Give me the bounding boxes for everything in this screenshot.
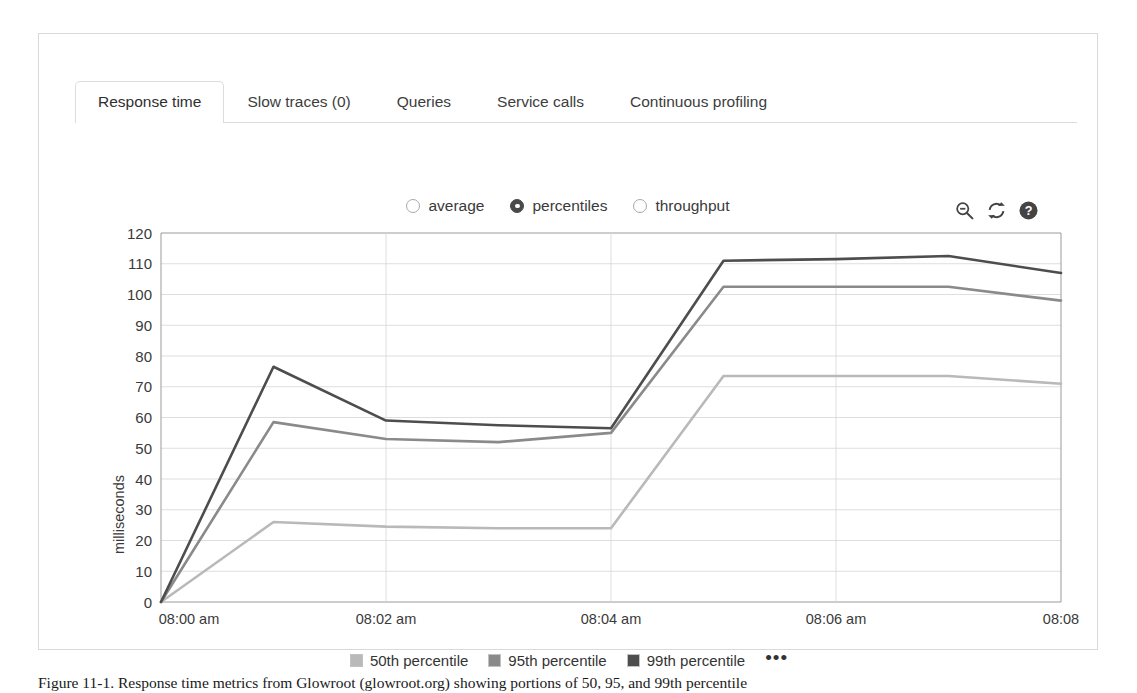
response-time-card: Response time Slow traces (0) Queries Se… [38, 33, 1098, 650]
radio-average-label: average [428, 197, 484, 215]
chart-legend: 50th percentile 95th percentile 99th per… [39, 652, 1099, 669]
legend-item-99th[interactable]: 99th percentile [627, 652, 745, 669]
chart-toolbar: ? [954, 200, 1039, 221]
svg-text:08:00 am: 08:00 am [159, 611, 219, 624]
svg-text:90: 90 [135, 317, 152, 334]
svg-text:100: 100 [127, 286, 152, 303]
tab-queries[interactable]: Queries [374, 81, 474, 122]
radio-circle-icon [633, 199, 647, 213]
tab-service-calls[interactable]: Service calls [474, 81, 607, 122]
radio-circle-selected-icon [510, 199, 524, 213]
radio-circle-icon [406, 199, 420, 213]
svg-text:50: 50 [135, 440, 152, 457]
svg-text:60: 60 [135, 409, 152, 426]
radio-percentiles[interactable]: percentiles [510, 197, 607, 215]
svg-text:08:04 am: 08:04 am [581, 611, 641, 624]
refresh-icon[interactable] [986, 200, 1007, 221]
help-icon[interactable]: ? [1018, 200, 1039, 221]
legend-item-95th[interactable]: 95th percentile [488, 652, 606, 669]
legend-label-99th: 99th percentile [647, 652, 745, 669]
svg-text:20: 20 [135, 532, 152, 549]
legend-item-50th[interactable]: 50th percentile [350, 652, 468, 669]
svg-text:110: 110 [128, 255, 152, 272]
tab-response-time[interactable]: Response time [75, 81, 224, 122]
legend-swatch-icon [350, 654, 363, 667]
screenshot-root: Response time Slow traces (0) Queries Se… [0, 0, 1137, 693]
svg-text:08:06 am: 08:06 am [806, 611, 866, 624]
legend-label-50th: 50th percentile [370, 652, 468, 669]
legend-swatch-icon [488, 654, 501, 667]
tab-bar: Response time Slow traces (0) Queries Se… [75, 76, 1077, 123]
tab-slow-traces[interactable]: Slow traces (0) [224, 81, 373, 122]
svg-text:0: 0 [144, 594, 152, 611]
radio-percentiles-label: percentiles [532, 197, 607, 215]
svg-text:70: 70 [135, 378, 152, 395]
figure-caption: Figure 11-1. Response time metrics from … [38, 672, 1100, 693]
chart-area: milliseconds 010203040506070809010011012… [39, 224, 1099, 624]
svg-text:40: 40 [135, 471, 152, 488]
radio-throughput-label: throughput [655, 197, 729, 215]
svg-text:?: ? [1025, 204, 1033, 218]
svg-text:30: 30 [135, 501, 152, 518]
svg-text:08:02 am: 08:02 am [356, 611, 416, 624]
zoom-out-icon[interactable] [954, 200, 975, 221]
legend-overflow-button[interactable]: ••• [765, 652, 788, 668]
svg-text:10: 10 [135, 563, 152, 580]
legend-label-95th: 95th percentile [508, 652, 606, 669]
svg-text:120: 120 [127, 225, 152, 242]
legend-swatch-icon [627, 654, 640, 667]
svg-text:80: 80 [135, 348, 152, 365]
metric-mode-radio-group: average percentiles throughput [39, 197, 1097, 215]
svg-text:08:08: 08:08 [1043, 611, 1079, 624]
response-time-line-chart[interactable]: 010203040506070809010011012008:00 am08:0… [39, 224, 1099, 624]
tab-continuous-profiling[interactable]: Continuous profiling [607, 81, 790, 122]
radio-throughput[interactable]: throughput [633, 197, 729, 215]
radio-average[interactable]: average [406, 197, 484, 215]
